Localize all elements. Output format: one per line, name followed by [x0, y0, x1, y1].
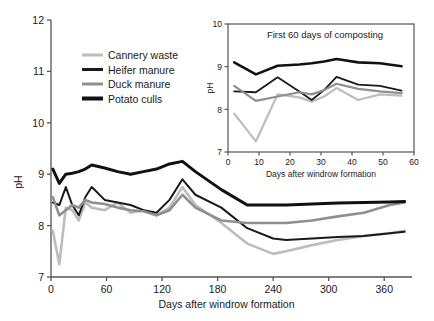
main-y-tick-label: 11	[33, 65, 44, 77]
main-x-tick-label: 300	[320, 283, 338, 295]
main-y-tick-label: 9	[38, 168, 44, 180]
main-series-line	[53, 161, 405, 205]
main-series-line	[53, 187, 405, 264]
inset-title: First 60 days of composting	[267, 29, 383, 40]
inset-y-axis-label: pH	[205, 83, 215, 94]
main-y-axis-label: pH	[12, 175, 24, 188]
inset-x-tick-label: 20	[285, 157, 295, 167]
main-x-axis-label: Days after windrow formation	[159, 298, 295, 310]
inset-x-tick-label: 0	[226, 157, 231, 167]
main-y-tick-label: 10	[32, 117, 44, 129]
inset-x-axis-label: Days after windrow formation	[266, 169, 376, 179]
inset-x-tick-label: 40	[347, 157, 357, 167]
legend-label: Heifer manure	[108, 64, 175, 76]
main-x-tick-label: 240	[264, 283, 282, 295]
inset-x-tick-label: 30	[316, 157, 326, 167]
main-x-tick-label: 0	[48, 283, 54, 295]
inset-x-tick-label: 50	[378, 157, 388, 167]
legend-label: Duck manure	[108, 78, 171, 90]
main-x-tick-label: 60	[101, 283, 113, 295]
inset-plot: 789100102030405060pHDays after windrow f…	[205, 19, 419, 179]
inset-y-tick-label: 8	[217, 105, 222, 115]
legend-label: Cannery waste	[108, 49, 178, 61]
legend: Cannery wasteHeifer manureDuck manurePot…	[82, 49, 178, 105]
legend-label: Potato culls	[108, 93, 162, 105]
inset-x-tick-label: 60	[409, 157, 419, 167]
main-y-tick-label: 8	[38, 220, 44, 232]
inset-x-tick-label: 10	[254, 157, 264, 167]
main-x-tick-label: 360	[375, 283, 393, 295]
chart-canvas: 789101112060120180240300360pHDays after …	[0, 0, 434, 321]
inset-y-tick-label: 10	[213, 19, 223, 29]
main-x-tick-label: 180	[209, 283, 227, 295]
inset-y-tick-label: 7	[217, 147, 222, 157]
figure-container: 789101112060120180240300360pHDays after …	[0, 0, 434, 321]
main-y-tick-label: 7	[38, 271, 44, 283]
main-x-tick-label: 120	[153, 283, 171, 295]
main-y-tick-label: 12	[32, 14, 44, 26]
inset-y-tick-label: 9	[217, 62, 222, 72]
